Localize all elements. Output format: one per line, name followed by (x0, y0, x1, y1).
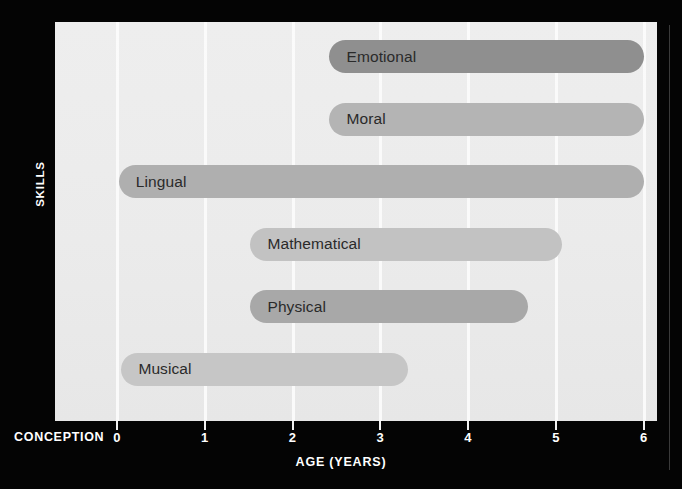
x-tick-label-1: 1 (201, 430, 209, 445)
y-axis-title: SKILLS (34, 161, 46, 207)
x-tick-label-0: 0 (113, 430, 121, 445)
bar-label: Mathematical (267, 235, 360, 253)
x-tick-label-5: 5 (552, 430, 560, 445)
bar-mathematical[interactable]: Mathematical (250, 228, 562, 261)
gridline-5 (555, 22, 558, 421)
tick-1 (204, 421, 206, 430)
bar-label: Emotional (346, 48, 416, 66)
chart-screenshot: EmotionalMoralLingualMathematicalPhysica… (0, 0, 682, 489)
tick-3 (379, 421, 381, 430)
bar-emotional[interactable]: Emotional (329, 40, 643, 73)
x-tick-label-3: 3 (377, 430, 385, 445)
tick-6 (643, 421, 645, 430)
bar-label: Musical (138, 360, 191, 378)
gridline-0 (116, 22, 119, 421)
right-edge-divider (669, 25, 670, 470)
bar-label: Moral (346, 110, 385, 128)
tick-2 (292, 421, 294, 430)
bar-lingual[interactable]: Lingual (119, 165, 644, 198)
plot-panel: EmotionalMoralLingualMathematicalPhysica… (55, 22, 657, 421)
tick-5 (555, 421, 557, 430)
x-tick-label-2: 2 (289, 430, 297, 445)
bar-musical[interactable]: Musical (121, 353, 407, 386)
x-axis-title: AGE (YEARS) (0, 455, 682, 469)
gridline-4 (467, 22, 470, 421)
gridline-6 (643, 22, 646, 421)
tick-0 (116, 421, 118, 430)
bar-moral[interactable]: Moral (329, 103, 643, 136)
tick-4 (467, 421, 469, 430)
bar-label: Lingual (136, 173, 187, 191)
bar-label: Physical (267, 298, 326, 316)
x-tick-label-4: 4 (464, 430, 472, 445)
x-tick-label-6: 6 (640, 430, 648, 445)
bar-physical[interactable]: Physical (250, 290, 527, 323)
x-axis-origin-label: CONCEPTION (14, 430, 104, 444)
